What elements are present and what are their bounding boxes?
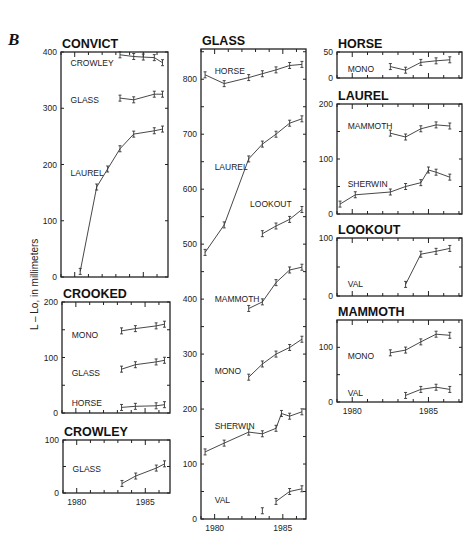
y-tick-label: 0 [54,488,59,498]
series-val: VAL [215,486,304,505]
panel-title: CROWLEY [64,425,129,439]
y-tick-label: 200 [183,404,197,414]
y-tick-label: 50 [324,47,334,57]
panel-convict: CONVICT0100200300400CROWLEYGLASSLAUREL [43,37,168,282]
y-tick-label: 0 [328,397,333,407]
y-tick-label: 100 [45,435,59,445]
y-tick-label: 500 [183,239,197,249]
x-tick-label: 1985 [273,523,292,533]
series-label: MAMMOTH [215,294,260,304]
series-label: MAMMOTH [348,121,393,131]
series-val: VAL [348,384,452,398]
panel-title: LOOKOUT [338,223,401,237]
x-tick-label: 1980 [343,406,362,416]
series-label: MONO [348,351,375,361]
panel-crowley: CROWLEY010019801985GLASS [45,425,170,507]
y-tick-label: 0 [192,514,197,524]
series-label: MONO [72,330,99,340]
y-tick-label: 200 [319,99,333,109]
panel-group: CONVICT0100200300400CROWLEYGLASSLAURELCR… [43,34,462,533]
series-label: HORSE [72,398,103,408]
y-tick-label: 100 [183,459,197,469]
series-label: LAUREL [71,168,104,178]
series-val: VAL [348,245,452,289]
series-label: GLASS [71,95,100,105]
y-tick-label: 100 [44,353,58,363]
panel-mammoth: MAMMOTH010019801985MONOVAL [319,305,462,416]
y-tick-label: 300 [43,103,57,113]
y-tick-label: 200 [44,297,58,307]
series-label: LAUREL [215,162,248,172]
series-label: MONO [215,366,242,376]
series-label: VAL [215,495,231,505]
series-val-isolated-point- [261,508,264,514]
panel-frame [61,52,168,277]
series-mono: MONO [348,57,452,74]
series-laurel: LAUREL [204,116,304,256]
y-tick-label: 100 [319,154,333,164]
series-sherwin: SHERWIN [339,167,452,207]
panel-glass: GLASS010020030040050060070080019801985HO… [183,34,306,533]
series-glass: GLASS [73,461,166,487]
y-tick-label: 700 [183,129,197,139]
figure-letter: B [7,30,19,49]
series-sherwin: SHERWIN [204,409,304,455]
series-label: VAL [348,388,364,398]
panel-title: HORSE [338,37,382,51]
y-tick-label: 0 [53,408,58,418]
x-tick-label: 1980 [205,523,224,533]
panel-horse: HORSE050MONO [324,37,462,83]
y-tick-label: 200 [43,160,57,170]
series-label: GLASS [72,368,101,378]
y-tick-label: 100 [319,233,333,243]
panel-laurel: LAUREL0100200MAMMOTHSHERWIN [319,89,462,219]
series-mono: MONO [215,336,304,380]
y-tick-label: 0 [328,291,333,301]
y-tick-label: 0 [328,73,333,83]
figure-canvas: B L – Lo, in millimeters CONVICT01002003… [0,0,468,557]
y-tick-label: 800 [183,74,197,84]
series-crowley: CROWLEY [71,52,164,68]
series-laurel: LAUREL [71,126,164,274]
x-tick-label: 1985 [136,497,155,507]
series-glass: GLASS [72,357,166,378]
y-tick-label: 0 [52,272,57,282]
panel-title: CONVICT [62,37,119,51]
x-tick-label: 1985 [419,406,438,416]
panel-crooked: CROOKED0100200MONOGLASSHORSE [44,287,170,418]
y-axis-label: L – Lo, in millimeters [29,239,40,330]
y-tick-label: 400 [183,294,197,304]
panel-frame [62,302,170,413]
series-horse: HORSE [204,61,304,86]
y-tick-label: 100 [319,342,333,352]
series-label: MONO [348,64,375,74]
series-glass: GLASS [71,91,164,105]
panel-title: GLASS [202,34,245,48]
series-lookout: LOOKOUT [250,199,303,237]
series-mono: MONO [72,321,166,340]
series-mono: MONO [348,331,452,360]
y-tick-label: 100 [43,216,57,226]
series-mammoth: MAMMOTH [348,121,452,140]
panel-title: LAUREL [338,89,389,103]
y-tick-label: 0 [328,209,333,219]
series-label: SHERWIN [348,179,388,189]
x-tick-label: 1980 [67,497,86,507]
panel-title: MAMMOTH [338,305,405,319]
series-label: GLASS [73,464,102,474]
series-mammoth: MAMMOTH [215,264,304,311]
series-horse: HORSE [72,398,166,410]
panel-lookout: LOOKOUT0100VAL [319,223,462,301]
panel-frame [201,49,306,519]
y-tick-label: 300 [183,349,197,359]
y-tick-label: 400 [43,47,57,57]
panel-title: CROOKED [63,287,127,301]
series-label: LOOKOUT [250,199,292,209]
series-label: HORSE [215,66,246,76]
series-label: VAL [348,279,364,289]
series-label: CROWLEY [71,58,114,68]
y-tick-label: 600 [183,184,197,194]
